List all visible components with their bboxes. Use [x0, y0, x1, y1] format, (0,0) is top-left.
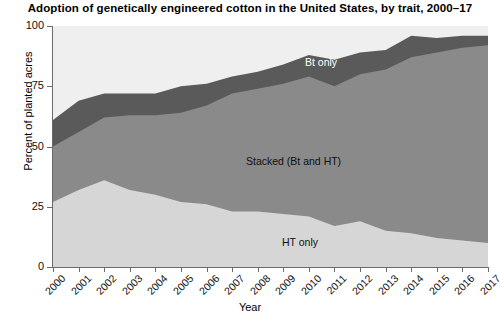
x-tick-label: 2003	[113, 272, 144, 303]
x-tick-label: 2017	[471, 272, 500, 303]
x-tick-label: 2002	[88, 272, 119, 303]
x-tick-mark	[437, 267, 438, 272]
x-tick-label: 2008	[241, 272, 272, 303]
y-tick-label: 0	[10, 260, 44, 272]
x-tick-label: 2006	[190, 272, 221, 303]
x-tick-mark	[360, 267, 361, 272]
x-tick-label: 2007	[215, 272, 246, 303]
x-tick-mark	[207, 267, 208, 272]
x-tick-label: 2016	[446, 272, 477, 303]
x-tick-mark	[462, 267, 463, 272]
y-axis-title: Percent of planted acres	[22, 21, 34, 201]
y-tick-mark	[47, 207, 53, 208]
y-tick-mark	[47, 26, 53, 27]
series-label-stacked: Stacked (Bt and HT)	[246, 155, 341, 167]
x-tick-mark	[386, 267, 387, 272]
y-tick-mark	[47, 86, 53, 87]
y-tick-mark	[47, 267, 53, 268]
x-tick-mark	[258, 267, 259, 272]
x-tick-label: 2001	[62, 272, 93, 303]
x-tick-label: 2014	[395, 272, 426, 303]
x-tick-label: 2009	[267, 272, 298, 303]
x-tick-mark	[232, 267, 233, 272]
x-tick-mark	[283, 267, 284, 272]
plot-area	[53, 26, 488, 267]
x-tick-label: 2015	[420, 272, 451, 303]
x-tick-label: 2010	[292, 272, 323, 303]
series-label-bt-only: Bt only	[305, 56, 337, 68]
series-label-ht-only: HT only	[282, 236, 318, 248]
x-tick-mark	[130, 267, 131, 272]
x-axis-title: Year	[0, 301, 500, 313]
x-tick-label: 2004	[139, 272, 170, 303]
y-tick-label: 25	[10, 200, 44, 212]
x-tick-label: 2013	[369, 272, 400, 303]
x-tick-mark	[104, 267, 105, 272]
x-tick-mark	[309, 267, 310, 272]
x-axis-line	[52, 267, 489, 268]
x-tick-mark	[488, 267, 489, 272]
x-tick-label: 2005	[164, 272, 195, 303]
x-tick-mark	[155, 267, 156, 272]
chart-figure: Adoption of genetically engineered cotto…	[0, 0, 500, 319]
x-tick-label: 2012	[343, 272, 374, 303]
y-tick-mark	[47, 147, 53, 148]
x-tick-mark	[53, 267, 54, 272]
chart-title: Adoption of genetically engineered cotto…	[0, 2, 500, 14]
x-tick-mark	[181, 267, 182, 272]
x-tick-mark	[334, 267, 335, 272]
x-tick-label: 2011	[318, 272, 349, 303]
x-tick-mark	[411, 267, 412, 272]
stacked-area-series	[53, 26, 488, 267]
x-tick-mark	[79, 267, 80, 272]
